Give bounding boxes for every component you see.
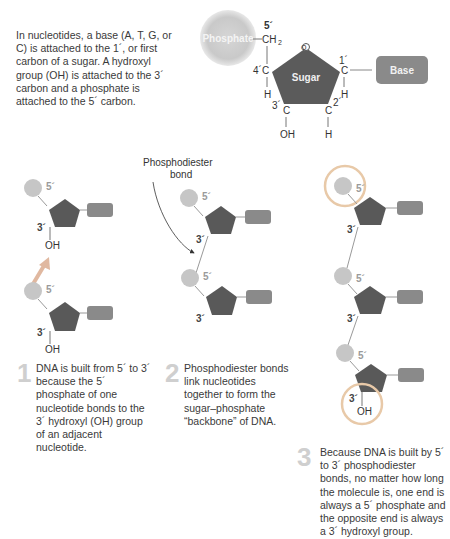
c2-label: 2´ [333,97,342,108]
svg-text:OH: OH [357,406,372,417]
step2-diagram: Phosphodiester bond 5´ 3´ 5´ 3´ [143,157,272,324]
c4-label: 4´C [253,65,269,76]
svg-text:OH: OH [45,240,60,251]
step3-diagram: 5´ 3´ 5´ 3´ 5´ 3´ OH [325,166,424,424]
step-1-number: 1 [17,360,31,386]
svg-text:H: H [341,89,348,100]
svg-text:3´: 3´ [196,234,205,245]
step-2-number: 2 [165,360,179,386]
step-1-text: DNA is built from 5´ to 3´ because the 5… [36,362,152,454]
c3-label: 3´ [272,100,281,111]
svg-text:5´: 5´ [356,183,365,194]
svg-text:3´: 3´ [349,393,358,404]
svg-text:3´: 3´ [37,222,46,233]
svg-text:H: H [264,89,271,100]
svg-text:OH: OH [280,129,295,140]
svg-text:C: C [283,105,290,116]
svg-text:H: H [325,129,332,140]
svg-text:3´: 3´ [37,327,46,338]
svg-text:bond: bond [170,169,192,180]
svg-text:2: 2 [278,39,282,46]
svg-text:O: O [301,44,307,51]
step-3-text: Because DNA is built by 5´ to 3´ phospho… [320,446,448,538]
svg-text:5´: 5´ [358,350,367,361]
svg-text:5´: 5´ [46,181,55,192]
svg-text:5´: 5´ [356,273,365,284]
svg-text:C: C [325,105,332,116]
large-nucleotide: Phosphate 5´ CH 2 O Sugar 4´C H 1´ C H 3… [200,10,428,140]
svg-text:5´: 5´ [202,191,211,202]
base-label: Base [390,65,414,76]
c5-label: 5´ [264,20,273,31]
svg-text:5´: 5´ [46,284,55,295]
svg-text:3´: 3´ [347,224,356,235]
step-2-text: Phosphodiester bonds link nucleotides to… [184,362,292,428]
phosphate-label: Phosphate [202,33,254,44]
ch2-label: CH [262,34,276,45]
phosphodiester-label: Phosphodiester [143,157,213,168]
step-3-number: 3 [297,444,311,470]
sugar-label: Sugar [292,72,320,83]
svg-text:3´: 3´ [347,313,356,324]
svg-text:OH: OH [45,344,60,355]
svg-text:5´: 5´ [203,271,212,282]
step1-diagram: 5´ 3´ OH 5´ 3´ OH [24,179,113,355]
svg-text:3´: 3´ [196,313,205,324]
svg-text:C: C [341,65,348,76]
